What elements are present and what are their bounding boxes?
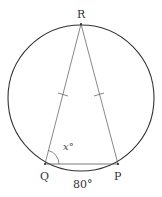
label-r: R: [77, 8, 86, 21]
angle-label-x: x°: [63, 141, 74, 152]
label-p: P: [114, 170, 122, 183]
circle-geometry-figure: R Q P x° 80°: [0, 0, 162, 197]
angle-arc-q: [49, 151, 60, 165]
circle: [8, 25, 154, 171]
point-p: [117, 163, 119, 165]
point-q: [44, 163, 46, 165]
arc-label-80: 80°: [73, 178, 93, 191]
point-r: [80, 23, 82, 25]
label-q: Q: [40, 170, 49, 183]
